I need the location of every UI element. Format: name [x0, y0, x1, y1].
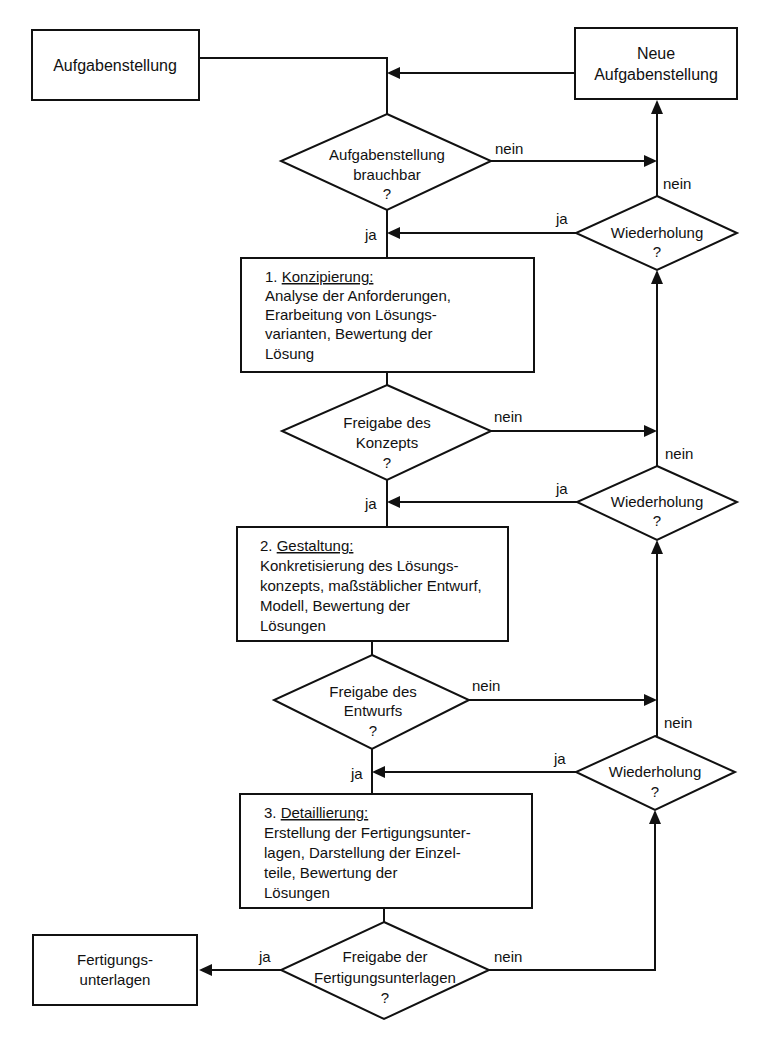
phase-detaillierung: 3. Detaillierung: Erstellung der Fertigu…	[240, 794, 532, 908]
phase-line: Erstellung der Fertigungsunter-	[264, 824, 471, 841]
phase-heading: 2. Gestaltung:	[260, 537, 353, 554]
edge-start-to-main	[199, 58, 387, 114]
arrow-head	[387, 227, 400, 239]
node-label-line: Fertigungs-	[77, 951, 153, 968]
edge-label-nein: nein	[664, 714, 692, 731]
flowchart: Aufgabenstellung Neue Aufgabenstellung A…	[0, 0, 765, 1038]
edge-label-ja: ja	[258, 948, 271, 965]
edge-label-ja: ja	[364, 495, 377, 512]
arrow-head	[651, 540, 663, 554]
edge-label-nein: nein	[495, 140, 523, 157]
node-label-line: ?	[653, 512, 661, 529]
phase-line: lagen, Darstellung der Einzel-	[264, 844, 461, 861]
node-label-line: Freigabe des	[329, 683, 417, 700]
node-label-line: Wiederholung	[611, 493, 704, 510]
phase-title: Gestaltung:	[277, 537, 354, 554]
edge-label-nein: nein	[494, 408, 522, 425]
node-label-line: ?	[383, 454, 391, 471]
arrow-head	[644, 425, 657, 437]
node-label-line: Aufgabenstellung	[594, 66, 718, 83]
phase-title: Detaillierung:	[281, 804, 369, 821]
phase-line: Erarbeitung von Lösungs-	[265, 306, 437, 323]
node-label-line: ?	[369, 722, 377, 739]
phase-line: varianten, Bewertung der	[265, 325, 433, 342]
node-label-line: ?	[651, 783, 659, 800]
phase-konzipierung: 1. Konzipierung: Analyse der Anforderung…	[241, 258, 534, 372]
node-label-line: Neue	[637, 45, 675, 62]
arrow-head	[649, 810, 661, 824]
phase-line: Lösung	[265, 345, 314, 362]
node-label-line: ?	[383, 185, 391, 202]
phase-number: 1.	[265, 268, 282, 285]
node-neue-aufgabenstellung: Neue Aufgabenstellung	[575, 28, 737, 99]
edge-label-nein: nein	[663, 175, 691, 192]
node-label-line: Wiederholung	[609, 763, 702, 780]
decision-aufgabenstellung-brauchbar: Aufgabenstellung brauchbar ?	[281, 114, 491, 210]
edge-label-ja: ja	[555, 210, 568, 227]
phase-number: 3.	[264, 804, 281, 821]
arrow-head	[644, 694, 657, 706]
edge-label-ja: ja	[350, 765, 363, 782]
phase-line: Lösungen	[264, 884, 330, 901]
arrow-head	[372, 766, 385, 778]
node-fertigungsunterlagen: Fertigungs- unterlagen	[33, 935, 197, 1005]
phase-line: teile, Bewertung der	[264, 864, 397, 881]
node-aufgabenstellung: Aufgabenstellung	[32, 30, 199, 100]
edge-label-nein: nein	[472, 677, 500, 694]
decision-freigabe-konzept: Freigabe des Konzepts ?	[282, 385, 491, 480]
phase-gestaltung: 2. Gestaltung: Konkretisierung des Lösun…	[237, 527, 508, 641]
decision-freigabe-entwurf: Freigabe des Entwurfs ?	[274, 655, 469, 749]
phase-line: Modell, Bewertung der	[260, 597, 410, 614]
node-label-line: ?	[653, 243, 661, 260]
node-label-line: Wiederholung	[611, 224, 704, 241]
node-label-line: Entwurfs	[344, 702, 402, 719]
edge-label-nein: nein	[665, 445, 693, 462]
arrow-head	[387, 496, 400, 508]
phase-heading: 3. Detaillierung:	[264, 804, 368, 821]
decision-wiederholung-2: Wiederholung ?	[577, 466, 737, 540]
phase-title: Konzipierung:	[282, 268, 374, 285]
phase-line: Lösungen	[260, 617, 326, 634]
phase-line: Konkretisierung des Lösungs-	[260, 557, 458, 574]
node-label-line: Aufgabenstellung	[329, 146, 445, 163]
node-label-line: ?	[381, 989, 389, 1006]
arrow-head	[644, 155, 657, 167]
arrow-head	[651, 270, 663, 284]
edge-label-nein: nein	[494, 948, 522, 965]
node-label-line: Freigabe der	[342, 948, 427, 965]
arrow-head	[651, 100, 663, 114]
node-label-line: brauchbar	[353, 166, 421, 183]
phase-line: konzepts, maßstäblicher Entwurf,	[260, 577, 482, 594]
edge-label-ja: ja	[553, 750, 566, 767]
phase-line: Analyse der Anforderungen,	[265, 287, 451, 304]
edge-label-ja: ja	[555, 480, 568, 497]
arrow-head	[387, 67, 400, 79]
phase-heading: 1. Konzipierung:	[265, 268, 373, 285]
phase-number: 2.	[260, 537, 277, 554]
decision-wiederholung-1: Wiederholung ?	[576, 196, 737, 270]
node-label-line: Konzepts	[356, 434, 419, 451]
edge-label-ja: ja	[364, 226, 377, 243]
decision-freigabe-fertigungsunterlagen: Freigabe der Fertigungsunterlagen ?	[281, 922, 489, 1019]
decision-wiederholung-3: Wiederholung ?	[576, 736, 735, 810]
node-label-line: Freigabe des	[343, 414, 431, 431]
node-label-line: Fertigungsunterlagen	[314, 969, 456, 986]
node-label: Aufgabenstellung	[53, 57, 177, 74]
arrow-head	[199, 964, 212, 976]
node-label-line: unterlagen	[80, 971, 151, 988]
